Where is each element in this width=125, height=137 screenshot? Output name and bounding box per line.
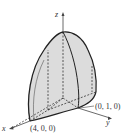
leader-line [80,106,94,108]
diagram-canvas: z x y (4, 0, 0) (0, 1, 0) [0,0,125,137]
leader-line-layer [0,0,125,137]
